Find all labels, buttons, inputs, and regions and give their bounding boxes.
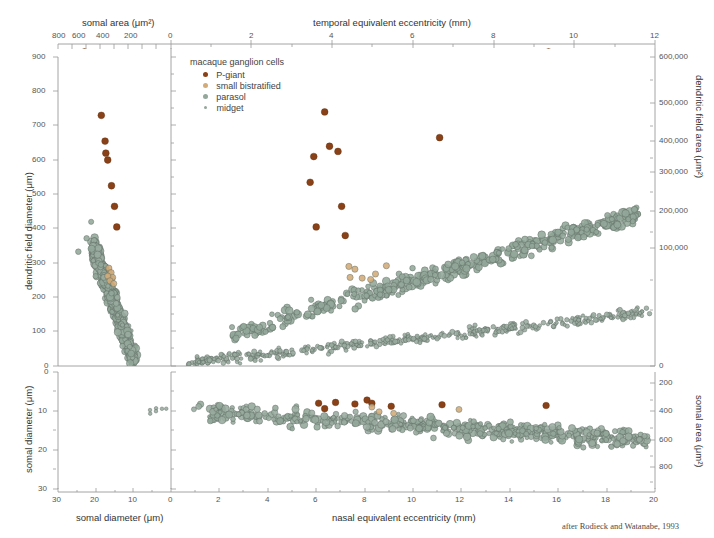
legend-swatch-parasol [203, 94, 208, 99]
tick-dfa-300000: 300,000 [659, 168, 688, 176]
tick-temporal-2: 2 [249, 32, 253, 40]
bottom-scatter-points [191, 397, 650, 450]
legend-item-p-giant[interactable]: P-giant [190, 69, 284, 80]
legend-label-p-giant: P-giant [216, 70, 245, 80]
tick-nasal-4: 4 [265, 496, 269, 504]
tick-dfd-300: 300 [32, 259, 45, 267]
lower-right-ticks [650, 383, 655, 482]
figure-credit: after Rodieck and Watanabe, 1993 [562, 521, 679, 531]
tick-nasal-14: 14 [504, 496, 513, 504]
tick-temporal-0: 0 [168, 32, 172, 40]
legend-title: macaque ganglion cells [190, 57, 284, 67]
bottomleft-points [148, 406, 168, 415]
tick-dfa-200000: 200,000 [659, 207, 688, 215]
tick-dfa-100000: 100,000 [659, 244, 688, 252]
legend-swatch-p-giant [203, 72, 208, 77]
tick-dfd-900: 900 [32, 53, 45, 61]
axis-title-nasal-eccentricity: nasal equivalent eccentricity (mm) [332, 513, 476, 523]
tick-temporal-4: 4 [329, 32, 333, 40]
tick-nasal-10: 10 [407, 496, 416, 504]
tick-dfd-200: 200 [32, 293, 45, 301]
tick-dfa-600000: 600,000 [659, 53, 688, 61]
tick-dfd-500: 500 [32, 190, 45, 198]
tick-dfd-100: 100 [32, 327, 45, 335]
tick-dfa-500000: 500,000 [659, 99, 688, 107]
legend: macaque ganglion cells P-giant small bis… [190, 57, 284, 113]
tick-bsd-10: 10 [128, 496, 137, 504]
axis-title-somal-diameter-left: somal diameter (μm) [24, 386, 34, 473]
tick-sa-600: 600 [659, 436, 672, 444]
tick-sd-20: 20 [38, 446, 47, 454]
tick-nasal-12: 12 [455, 496, 464, 504]
axis-title-somal-diameter-bottom: somal diameter (μm) [76, 513, 163, 523]
legend-item-midget[interactable]: midget [190, 102, 284, 113]
tick-somal-area-200: 200 [124, 32, 137, 40]
tick-temporal-6: 6 [410, 32, 414, 40]
right-upper-ticks [650, 57, 655, 366]
tick-sa-200: 200 [659, 379, 672, 387]
legend-label-small-bistratified: small bistratified [216, 81, 281, 91]
tick-dfd-800: 800 [32, 87, 45, 95]
tick-dfd-600: 600 [32, 156, 45, 164]
tick-nasal-16: 16 [552, 496, 561, 504]
tick-dfd-700: 700 [32, 121, 45, 129]
legend-label-midget: midget [216, 103, 243, 113]
tick-temporal-12: 12 [650, 32, 659, 40]
tick-nasal-6: 6 [313, 496, 317, 504]
tick-sa-400: 400 [659, 407, 672, 415]
tick-sd-30: 30 [38, 485, 47, 493]
tick-somal-area-800: 800 [52, 32, 65, 40]
tick-temporal-8: 8 [491, 32, 495, 40]
legend-swatch-small-bistratified [203, 83, 208, 88]
lower-main-spine-ticks [171, 372, 176, 489]
left-scatter-points [76, 42, 141, 368]
tick-bsd-30: 30 [52, 496, 61, 504]
tick-sd-0: 0 [44, 368, 48, 376]
axis-title-dendritic-field-diameter: dendritic field diameter (μm) [24, 172, 34, 290]
main-left-spine-ticks [171, 57, 176, 366]
tick-bsd-20: 20 [90, 496, 99, 504]
left-upper-ticks [53, 57, 58, 366]
lower-left-ticks [53, 372, 58, 489]
tick-somal-area-400: 400 [96, 32, 109, 40]
bottom-axis-ticks [58, 488, 655, 492]
tick-bsd-0: 0 [168, 496, 172, 504]
legend-item-parasol[interactable]: parasol [190, 91, 284, 102]
plot-canvas [0, 0, 714, 538]
tick-sa-800: 800 [659, 463, 672, 471]
legend-swatch-midget [204, 106, 207, 109]
tick-nasal-20: 20 [649, 496, 658, 504]
figure-root: somal area (μm²) temporal equivalent ecc… [0, 0, 714, 538]
tick-nasal-8: 8 [362, 496, 366, 504]
tick-dfd-400: 400 [32, 224, 45, 232]
legend-label-parasol: parasol [216, 92, 246, 102]
legend-item-small-bistratified[interactable]: small bistratified [190, 80, 284, 91]
tick-dfa-400000: 400,000 [659, 137, 688, 145]
tick-somal-area-600: 600 [72, 32, 85, 40]
tick-dfa-0: 0 [659, 362, 663, 370]
tick-sd-10: 10 [38, 407, 47, 415]
top-axis-ticks [58, 40, 655, 49]
tick-nasal-18: 18 [601, 496, 610, 504]
axis-title-somal-area-right: somal area (μm²) [695, 395, 705, 468]
tick-nasal-2: 2 [216, 496, 220, 504]
tick-temporal-10: 10 [569, 32, 578, 40]
axis-title-dendritic-field-area: dendritic field area (μm²) [695, 75, 705, 178]
